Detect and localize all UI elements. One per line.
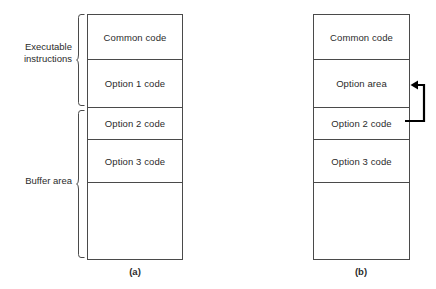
memory-row-option-3-code: Option 3 code bbox=[88, 139, 182, 182]
memory-map-a: Common code Option 1 code Option 2 code … bbox=[87, 14, 183, 260]
memory-row-option-2-code: Option 2 code bbox=[314, 107, 409, 139]
memory-row-option-1-code: Option 1 code bbox=[88, 59, 182, 107]
memory-row-option-2-code: Option 2 code bbox=[88, 107, 182, 139]
brace-buffer-icon bbox=[76, 110, 85, 258]
brace-buffer-area bbox=[76, 110, 85, 258]
caption-a: (a) bbox=[105, 266, 165, 277]
memory-map-b: Common code Option area Option 2 code Op… bbox=[313, 14, 410, 260]
brace-executable-instructions bbox=[76, 14, 85, 106]
brace-label-executable-instructions: Executable instructions bbox=[0, 41, 72, 64]
memory-row-option-area: Option area bbox=[314, 59, 409, 107]
memory-row-option-3-code: Option 3 code bbox=[314, 139, 409, 182]
memory-row-free-space bbox=[314, 182, 409, 259]
overlay-load-arrow-icon bbox=[405, 72, 436, 130]
memory-row-common-code: Common code bbox=[314, 15, 409, 59]
memory-row-free-space bbox=[88, 182, 182, 259]
brace-executable-icon bbox=[76, 14, 85, 106]
figure-root: Executable instructions Buffer area Comm… bbox=[0, 0, 436, 289]
memory-row-common-code: Common code bbox=[88, 15, 182, 59]
overlay-load-arrow bbox=[405, 72, 436, 130]
brace-label-buffer-area: Buffer area bbox=[0, 175, 72, 187]
caption-b: (b) bbox=[331, 266, 391, 277]
